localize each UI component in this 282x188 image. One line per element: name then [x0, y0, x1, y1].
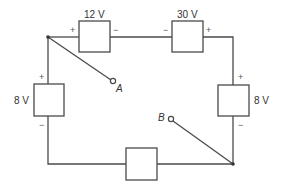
node-top-left	[46, 35, 50, 39]
wire-to-terminal-b	[173, 121, 233, 164]
terminal-b-label: B	[158, 112, 165, 123]
terminal-b-circle	[168, 116, 173, 121]
terminal-a-circle	[110, 78, 115, 83]
minus-sign: −	[39, 120, 44, 130]
source-12v-label: 12 V	[84, 9, 105, 20]
minus-sign: −	[163, 25, 168, 35]
plus-sign: +	[70, 25, 75, 35]
terminal-b: B	[158, 112, 174, 123]
minus-sign: −	[238, 120, 243, 130]
terminal-a-label: A	[115, 83, 123, 94]
terminal-a: A	[110, 78, 123, 94]
wire-top-right	[203, 37, 233, 85]
source-right-8v: 8 V + −	[218, 72, 269, 130]
element-bottom	[126, 148, 157, 180]
node-bottom-right	[231, 162, 235, 166]
source-30v: 30 V − +	[163, 9, 211, 52]
plus-sign: +	[39, 72, 44, 82]
source-left-8v-label: 8 V	[14, 95, 29, 106]
source-30v-label: 30 V	[177, 9, 198, 20]
source-left-8v: 8 V + −	[14, 72, 64, 130]
source-right-8v-label: 8 V	[254, 95, 269, 106]
minus-sign: −	[113, 25, 118, 35]
circuit-diagram: 12 V + − 30 V − + 8 V + − 8 V + − A B	[0, 0, 282, 188]
plus-sign: +	[238, 72, 243, 82]
wire-left-lower	[48, 116, 126, 164]
wires	[48, 37, 233, 164]
source-12v: 12 V + −	[70, 9, 118, 52]
plus-sign: +	[206, 25, 211, 35]
